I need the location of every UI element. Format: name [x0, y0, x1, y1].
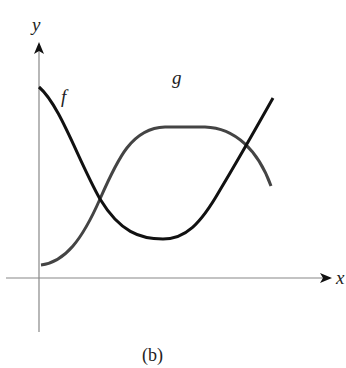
curve-g-label: g [172, 67, 182, 88]
graph-figure: y x f g (b) [0, 0, 346, 368]
x-axis-label: x [335, 267, 345, 288]
curve-f [39, 87, 273, 239]
figure-caption: (b) [142, 345, 163, 366]
curve-f-label: f [61, 86, 69, 107]
y-axis-label: y [30, 14, 41, 35]
